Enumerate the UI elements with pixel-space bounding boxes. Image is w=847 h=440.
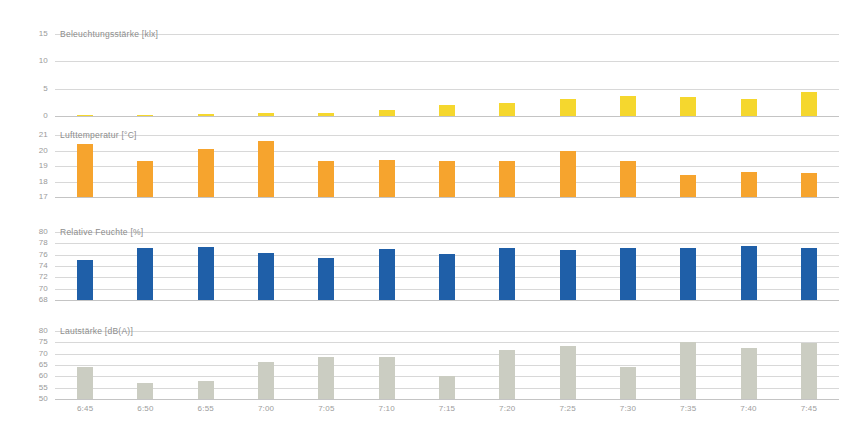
x-tick-label: 7:10 <box>379 404 395 413</box>
bar <box>198 247 214 300</box>
bar <box>680 97 696 116</box>
bar <box>620 161 636 197</box>
y-tick-label: 18 <box>0 178 48 186</box>
bar <box>137 161 153 197</box>
y-tick-label: 70 <box>0 350 48 358</box>
y-tick-label: 80 <box>0 228 48 236</box>
y-tick-label: 0 <box>0 112 48 120</box>
bar <box>499 161 515 197</box>
bar <box>439 254 455 300</box>
y-tick-label: 70 <box>0 285 48 293</box>
bar-series-relative-humidity <box>55 232 839 300</box>
y-axis-illuminance: 151050 <box>0 34 48 116</box>
panel-title-illuminance: Beleuchtungsstärke [klx] <box>60 30 158 39</box>
x-tick-label: 7:20 <box>499 404 515 413</box>
bar <box>560 99 576 116</box>
y-tick-label: 10 <box>0 57 48 65</box>
y-tick-label: 50 <box>0 395 48 403</box>
panel-air-temperature: 2120191817 <box>0 135 847 197</box>
x-tick-label: 6:55 <box>198 404 214 413</box>
y-tick-label: 20 <box>0 147 48 155</box>
bar <box>560 346 576 399</box>
bar <box>137 115 153 116</box>
y-tick-label: 17 <box>0 193 48 201</box>
bar <box>77 144 93 197</box>
bar-series-air-temperature <box>55 135 839 197</box>
y-axis-sound-level: 80757065605550 <box>0 331 48 399</box>
panel-illuminance: 151050 <box>0 34 847 116</box>
bar-series-sound-level <box>55 331 839 399</box>
gridline <box>55 300 839 301</box>
plot-area-relative-humidity <box>55 232 839 300</box>
bar <box>680 342 696 399</box>
x-tick-label: 7:05 <box>318 404 334 413</box>
bar <box>258 141 274 197</box>
panel-title-relative-humidity: Relative Feuchte [%] <box>60 228 143 237</box>
bar <box>560 151 576 198</box>
plot-area-sound-level <box>55 331 839 399</box>
y-tick-label: 65 <box>0 361 48 369</box>
y-tick-label: 80 <box>0 327 48 335</box>
bar <box>801 173 817 197</box>
y-tick-label: 55 <box>0 384 48 392</box>
x-tick-label: 6:45 <box>77 404 93 413</box>
x-tick-label: 7:45 <box>801 404 817 413</box>
bar <box>741 99 757 116</box>
y-axis-relative-humidity: 80787674727068 <box>0 232 48 300</box>
bar <box>620 248 636 300</box>
x-tick-label: 7:40 <box>740 404 756 413</box>
y-tick-label: 19 <box>0 162 48 170</box>
bar <box>680 248 696 300</box>
y-tick-label: 68 <box>0 296 48 304</box>
gridline <box>55 197 839 198</box>
bar <box>379 249 395 300</box>
bar <box>801 248 817 300</box>
panel-sound-level: 80757065605550 <box>0 331 847 399</box>
y-tick-label: 60 <box>0 372 48 380</box>
x-tick-label: 7:00 <box>258 404 274 413</box>
panel-relative-humidity: 80787674727068 <box>0 232 847 300</box>
bar <box>379 160 395 197</box>
y-tick-label: 5 <box>0 85 48 93</box>
bar <box>77 115 93 116</box>
bar <box>318 113 334 116</box>
y-tick-label: 74 <box>0 262 48 270</box>
panel-title-air-temperature: Lufttemperatur [°C] <box>60 131 137 140</box>
x-tick-label: 7:25 <box>559 404 575 413</box>
bar <box>620 367 636 399</box>
y-tick-label: 75 <box>0 338 48 346</box>
bar <box>379 357 395 399</box>
bar <box>258 253 274 300</box>
bar <box>439 161 455 197</box>
bar <box>258 113 274 116</box>
multi-panel-bar-chart: 151050Beleuchtungsstärke [klx]2120191817… <box>0 0 847 440</box>
panel-title-sound-level: Lautstärke [dB(A)] <box>60 327 133 336</box>
y-tick-label: 15 <box>0 30 48 38</box>
bar <box>137 248 153 300</box>
x-tick-label: 7:30 <box>620 404 636 413</box>
bar <box>318 161 334 197</box>
bar <box>560 250 576 300</box>
x-tick-label: 7:35 <box>680 404 696 413</box>
bar <box>801 92 817 116</box>
bar <box>499 350 515 399</box>
bar <box>801 343 817 399</box>
y-tick-label: 21 <box>0 131 48 139</box>
bar <box>77 260 93 300</box>
bar <box>318 357 334 399</box>
plot-area-illuminance <box>55 34 839 116</box>
x-axis: 6:456:506:557:007:057:107:157:207:257:30… <box>55 400 839 420</box>
y-tick-label: 76 <box>0 251 48 259</box>
bar <box>499 248 515 300</box>
bar <box>439 376 455 399</box>
bar <box>318 258 334 301</box>
bar <box>198 114 214 116</box>
gridline <box>55 116 839 117</box>
bar <box>258 362 274 399</box>
x-tick-label: 6:50 <box>137 404 153 413</box>
x-tick-label: 7:15 <box>439 404 455 413</box>
bar <box>77 367 93 399</box>
bar <box>741 172 757 197</box>
bar <box>499 103 515 116</box>
y-tick-label: 78 <box>0 239 48 247</box>
